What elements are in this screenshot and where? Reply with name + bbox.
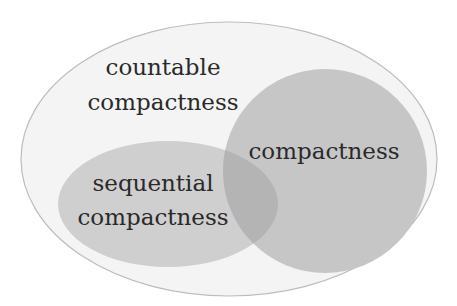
countable-label-line2: compactness <box>87 89 238 115</box>
countable-label-line1: countable <box>106 54 221 80</box>
compactness-label: compactness <box>248 138 399 164</box>
sequential-label-line2: compactness <box>77 204 228 230</box>
venn-diagram: countable compactness compactness sequen… <box>0 0 457 306</box>
sequential-label-line1: sequential <box>92 170 213 196</box>
